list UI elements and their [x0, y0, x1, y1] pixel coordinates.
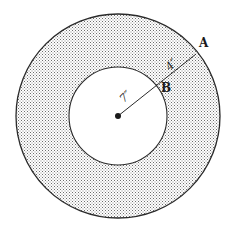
- center-point: [115, 113, 121, 119]
- annulus-diagram: A B 7″ 4″: [0, 0, 230, 230]
- point-a-label: A: [198, 36, 209, 50]
- point-b-label: B: [161, 81, 171, 95]
- diagram-svg: A B 7″ 4″: [0, 0, 230, 230]
